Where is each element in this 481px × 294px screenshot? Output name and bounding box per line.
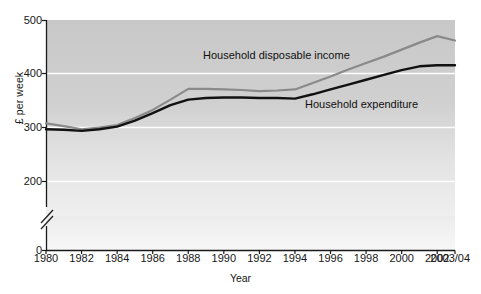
x-tick-label-1996: 1996 bbox=[318, 253, 342, 264]
y-tick-label-300: 300 bbox=[12, 122, 42, 133]
x-tick-label-2000: 2000 bbox=[389, 253, 413, 264]
series-label-household-disposable-income: Household disposable income bbox=[203, 50, 350, 61]
y-tick-label-200: 200 bbox=[12, 176, 42, 187]
chart-plot-area bbox=[0, 0, 481, 294]
x-tick-label-1988: 1988 bbox=[176, 253, 200, 264]
x-tick-label-1990: 1990 bbox=[212, 253, 236, 264]
x-tick-label-1982: 1982 bbox=[69, 253, 93, 264]
x-tick-label-1980: 1980 bbox=[34, 253, 58, 264]
y-axis-tick-labels: 5004003002000 bbox=[8, 0, 42, 294]
x-tick-label-1984: 1984 bbox=[105, 253, 129, 264]
plot-background-lower bbox=[46, 216, 455, 250]
y-tick-label-400: 400 bbox=[12, 68, 42, 79]
x-axis-tick-labels: 1980198219841986198819901992199419961998… bbox=[0, 253, 481, 269]
y-tick-label-500: 500 bbox=[12, 15, 42, 26]
x-tick-label-2003-04: 2003/04 bbox=[430, 253, 470, 264]
x-tick-label-1994: 1994 bbox=[283, 253, 307, 264]
y-tick-marks bbox=[42, 21, 46, 251]
x-tick-label-1986: 1986 bbox=[140, 253, 164, 264]
x-tick-label-1998: 1998 bbox=[354, 253, 378, 264]
x-axis-title: Year bbox=[0, 272, 481, 284]
chart-figure: £ per week 5004003002000 198019821984198… bbox=[0, 0, 481, 294]
x-tick-label-1992: 1992 bbox=[247, 253, 271, 264]
series-label-household-expenditure: Household expenditure bbox=[305, 99, 418, 110]
cropped-caption bbox=[0, 288, 481, 294]
